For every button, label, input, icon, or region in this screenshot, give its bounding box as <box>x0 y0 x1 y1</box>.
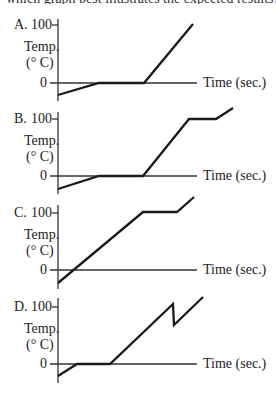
graph-letter: D. <box>14 300 28 314</box>
y-label-0: 0 <box>40 357 47 371</box>
graph-d: D. 100 Temp. (° C) 0 Time (sec.) <box>0 0 276 394</box>
x-axis-title: Time (sec.) <box>203 357 266 371</box>
y-axis-title: Temp. <box>24 322 59 336</box>
y-label-100: 100 <box>31 300 52 314</box>
y-axis-unit: (° C) <box>26 338 54 352</box>
